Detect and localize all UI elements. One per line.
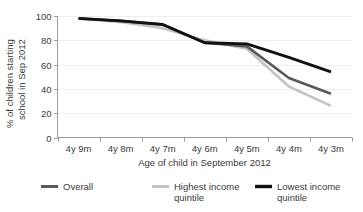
y-tick-labels: 020406080100 bbox=[36, 11, 52, 144]
y-tick-label: 40 bbox=[41, 84, 52, 95]
chart-legend: OverallHighest incomequintileLowest inco… bbox=[41, 181, 340, 203]
y-axis-title: % of children starting school in Sep 201… bbox=[4, 39, 27, 128]
y-axis-title-line2: school in Sep 2012 bbox=[16, 39, 27, 120]
legend-label: Highest income bbox=[174, 181, 239, 192]
x-tick-label: 4y 4m bbox=[276, 143, 302, 154]
x-tick-label: 4y 5m bbox=[234, 143, 260, 154]
x-tick-label: 4y 6m bbox=[192, 143, 218, 154]
series-line-overall bbox=[79, 18, 331, 93]
y-tick-label: 60 bbox=[41, 60, 52, 71]
chart-container: % of children starting school in Sep 201… bbox=[0, 0, 363, 212]
legend-label: Overall bbox=[63, 181, 93, 192]
y-tick-marks bbox=[54, 17, 58, 139]
y-tick-label: 0 bbox=[46, 133, 51, 144]
y-axis-title-line1: % of children starting bbox=[4, 39, 15, 128]
x-axis-title: Age of child in September 2012 bbox=[138, 157, 271, 168]
legend-label: Lowest income bbox=[277, 181, 340, 192]
y-tick-label: 80 bbox=[41, 35, 52, 46]
x-tick-label: 4y 8m bbox=[108, 143, 134, 154]
x-tick-marks bbox=[59, 138, 353, 142]
x-tick-labels: 4y 9m4y 8m4y 7m4y 6m4y 5m4y 4m4y 3m bbox=[66, 143, 344, 154]
series-line-lowest-income-quintile bbox=[79, 18, 331, 71]
series-line-highest-income-quintile bbox=[79, 18, 331, 105]
x-tick-label: 4y 3m bbox=[318, 143, 344, 154]
y-tick-label: 100 bbox=[36, 11, 52, 22]
series-lines bbox=[79, 18, 331, 105]
y-tick-label: 20 bbox=[41, 108, 52, 119]
legend-label-line2: quintile bbox=[174, 192, 204, 203]
legend-label-line2: quintile bbox=[277, 192, 307, 203]
x-tick-label: 4y 9m bbox=[66, 143, 92, 154]
x-tick-label: 4y 7m bbox=[150, 143, 176, 154]
line-chart: % of children starting school in Sep 201… bbox=[0, 0, 363, 212]
